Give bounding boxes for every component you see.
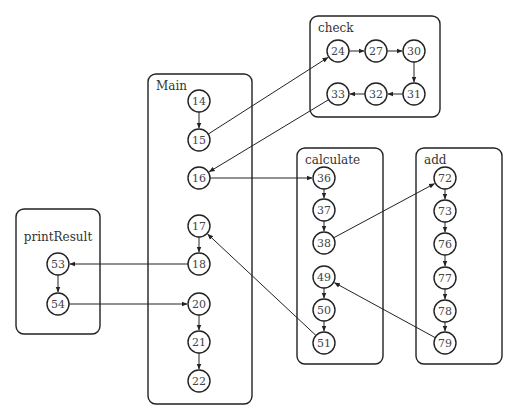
node-27: 27 (365, 40, 387, 62)
node-label: 73 (438, 205, 452, 218)
node-label: 24 (331, 45, 345, 58)
node-label: 15 (192, 134, 206, 147)
node-17: 17 (188, 215, 210, 237)
node-72: 72 (434, 167, 456, 189)
node-22: 22 (188, 370, 210, 392)
box-label: Main (156, 79, 187, 93)
node-33: 33 (327, 83, 349, 105)
node-14: 14 (188, 90, 210, 112)
node-79: 79 (434, 332, 456, 354)
node-15: 15 (188, 129, 210, 151)
edge-38-to-72 (334, 184, 435, 238)
node-label: 38 (317, 237, 331, 250)
edge-79-to-49 (335, 283, 436, 338)
node-77: 77 (434, 267, 456, 289)
box-label: check (318, 21, 354, 35)
node-label: 79 (438, 337, 452, 350)
node-label: 17 (192, 220, 206, 233)
node-label: 36 (317, 172, 331, 185)
node-label: 14 (192, 95, 206, 108)
node-label: 20 (192, 298, 206, 311)
node-label: 16 (192, 172, 206, 185)
node-label: 22 (192, 375, 206, 388)
function-box-add: add (416, 148, 502, 364)
function-box-main: Main (148, 74, 252, 404)
node-label: 18 (192, 258, 206, 271)
node-label: 78 (438, 305, 452, 318)
node-label: 77 (438, 272, 452, 285)
node-label: 30 (407, 45, 421, 58)
node-36: 36 (313, 167, 335, 189)
node-78: 78 (434, 300, 456, 322)
node-24: 24 (327, 40, 349, 62)
box-label: add (424, 153, 447, 167)
node-18: 18 (188, 253, 210, 275)
node-label: 33 (331, 88, 345, 101)
function-boxes: checkMaincalculateaddprintResult (16, 16, 502, 404)
node-38: 38 (313, 232, 335, 254)
edge-51-to-17 (208, 234, 316, 335)
box-label: printResult (24, 230, 93, 244)
function-box-calculate: calculate (297, 148, 383, 364)
node-76: 76 (434, 233, 456, 255)
node-label: 31 (407, 88, 421, 101)
box-border (416, 148, 502, 364)
node-label: 37 (317, 204, 331, 217)
node-label: 72 (438, 172, 452, 185)
node-51: 51 (313, 332, 335, 354)
node-50: 50 (313, 299, 335, 321)
node-37: 37 (313, 199, 335, 221)
node-49: 49 (313, 266, 335, 288)
node-30: 30 (403, 40, 425, 62)
call-graph-diagram: checkMaincalculateaddprintResult 2427303… (0, 0, 519, 419)
node-label: 49 (317, 271, 331, 284)
node-32: 32 (365, 83, 387, 105)
node-21: 21 (188, 331, 210, 353)
node-label: 53 (51, 258, 65, 271)
node-16: 16 (188, 167, 210, 189)
node-20: 20 (188, 293, 210, 315)
node-label: 51 (317, 337, 331, 350)
node-label: 21 (192, 336, 206, 349)
node-73: 73 (434, 200, 456, 222)
node-label: 50 (317, 304, 331, 317)
node-label: 76 (438, 238, 452, 251)
box-label: calculate (305, 153, 360, 167)
node-31: 31 (403, 83, 425, 105)
box-border (148, 74, 252, 404)
node-label: 54 (51, 298, 65, 311)
box-border (297, 148, 383, 364)
node-53: 53 (47, 253, 69, 275)
node-label: 27 (369, 45, 383, 58)
node-54: 54 (47, 293, 69, 315)
node-label: 32 (369, 88, 383, 101)
